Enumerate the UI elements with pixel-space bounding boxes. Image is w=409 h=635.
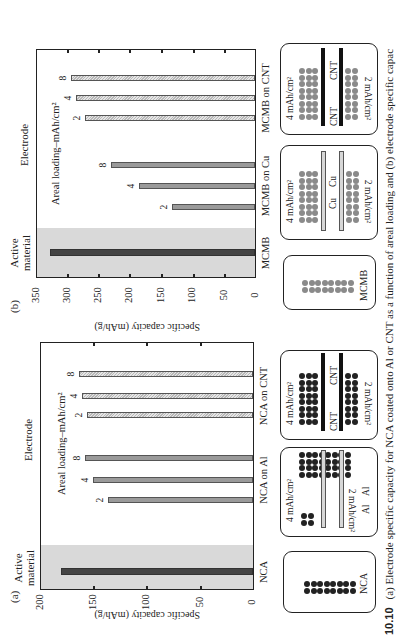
particles-2 [345,374,358,426]
particles-2 [346,172,359,224]
diagram-nca-on-cnt: 4 mAh/cm² CNT CNT 2 mAh/cm² [280,350,378,440]
tick-label: 150 [87,587,98,617]
bar-number: 4 [80,478,90,483]
bar-number: 8 [72,456,82,461]
tick-mark [98,274,100,278]
tick-mark [146,342,148,346]
bar-nca-on-al-2 [108,497,253,503]
tick-label: 0 [246,587,257,617]
mcmb-particles [302,281,354,294]
tick-mark [200,586,202,590]
figure-caption-text: (a) Electrode specific capacity for NCA … [383,49,395,599]
region-active-line2: material [20,235,32,271]
bar-nca-on-cnt-2 [87,412,253,418]
diagram-label-nca: NCA [358,573,369,594]
region-active-line2: material [24,550,36,586]
cnt-label-left: CNT [329,107,339,126]
diagram-label-mcmb: MCMB [358,270,369,301]
cnt-label-right: CNT [329,366,339,385]
bar-mcmb-on-cnt-8 [71,75,255,81]
tick-mark [161,49,163,53]
diagram-mcmb-on-cu: 4 mAh/cm² Cu Cu 2 mAh/cm² [280,145,378,240]
panel-a-label: (a) [8,591,20,603]
tick-mark [129,49,131,53]
region-active-line1: Active [12,550,24,586]
loading-2-label: 2 mAh/cm² [347,489,357,532]
bar-number: 4 [69,394,79,399]
tick-label: 200 [34,587,45,617]
foil-label-left: Al [361,505,371,515]
cnt-collector-bottom [339,48,343,126]
tick-label: 150 [155,280,166,310]
nca-particles [304,582,356,595]
tick-mark [93,586,95,590]
particles-2 [345,69,358,121]
cu-foil-top [321,151,326,231]
bar-mcmb-on-cu-2 [172,204,255,210]
cnt-collector-top [321,48,325,126]
tick-mark [224,49,226,53]
loading-4-label: 4 mAh/cm² [285,382,295,425]
particles-2 [301,514,314,527]
panel-b-y-axis-title: Specific capacity (mAh/g) [94,322,200,333]
tick-mark [67,274,69,278]
loading-2-label: 2 mAh/cm² [363,382,373,425]
tick-mark [224,274,226,278]
tick-label: 100 [186,280,197,310]
tick-label: 100 [140,587,151,617]
bar-number: 2 [72,116,82,121]
loading-4-label: 4 mAh/cm² [285,180,295,223]
loading-2-label: 2 mAh/cm² [363,77,373,120]
areal-loading-title: Areal loading–mAh/cm² [50,102,61,205]
foil-label-left: Cu [328,198,338,209]
tick-label: 250 [92,280,103,310]
areal-loading-title: Areal loading–mAh/cm² [56,392,67,495]
foil-label-right: Al [361,487,371,497]
tick-mark [200,342,202,346]
tick-label: 300 [61,280,72,310]
region-label-active: Active material [12,550,36,586]
bar-number: 2 [74,413,84,418]
tick-label: 350 [30,280,41,310]
loading-4-label: 4 mAh/cm² [285,77,295,120]
diagram-mcmb-on-cnt: 4 mAh/cm² CNT CNT 2 mAh/cm² [280,43,378,135]
tick-label: 0 [249,280,260,310]
region-label-electrode: Electrode [18,124,30,166]
bar-nca-on-cnt-4 [82,393,253,399]
tick-mark [67,49,69,53]
cnt-label-left: CNT [329,412,339,431]
bar-mcmb-on-cu-4 [139,183,255,189]
particles-4 [299,69,318,121]
cnt-collector-bottom [339,353,343,431]
tick-mark [193,49,195,53]
region-active-line1: Active [8,235,20,271]
figure-number: 10.10 [383,607,395,635]
figure-caption: 10.10(a) Electrode specific capacity for… [383,49,395,635]
tick-mark [93,342,95,346]
bar-mcmb-on-cu-8 [111,162,255,168]
bar-nca [61,568,253,575]
cu-foil-bottom [339,151,344,231]
tick-mark [98,49,100,53]
diagram-nca-on-al: 4 mAh/cm² Al Al 2 mAh/cm² [280,447,378,537]
category-label: MCMB on Cu [260,156,271,217]
category-label: MCMB on CNT [260,63,271,132]
bar-number: 2 [95,498,105,503]
bar-number: 2 [159,205,169,210]
cnt-label-right: CNT [329,61,339,80]
bar-mcmb-on-cnt-2 [85,115,255,121]
category-label: MCMB [260,237,271,270]
panel-b-label: (b) [8,300,20,313]
loading-2-label: 2 mAh/cm² [363,180,373,223]
bar-nca-on-cnt-8 [79,371,253,377]
particles-4 [299,374,318,426]
tick-label: 50 [194,587,205,617]
tick-mark [129,274,131,278]
tick-mark [193,274,195,278]
bar-mcmb-on-cnt-4 [76,95,255,101]
category-label: NCA [258,561,269,583]
al-foil-bottom [339,450,344,528]
tick-label: 50 [218,280,229,310]
bar-nca-on-al-8 [85,455,253,461]
bar-number: 8 [66,372,76,377]
